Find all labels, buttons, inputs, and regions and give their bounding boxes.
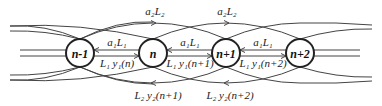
label-L1y1-n1: L₁ y₁(n+1) (165, 57, 213, 70)
label-a2L2: a₂L₂ (217, 5, 236, 17)
curve-bottom-arc (80, 67, 226, 83)
label-L1y1-n: L₁ y₁(n) (99, 57, 135, 70)
label-a1L1: a₁L₁ (180, 36, 199, 48)
node-label: n+1 (216, 47, 236, 61)
curve-bottom-long (10, 67, 153, 81)
node-n: n (139, 39, 167, 67)
node-n-minus-1: n-1 (66, 39, 94, 67)
curve-bottom (300, 67, 372, 77)
curve-top-arc (226, 23, 372, 39)
curve-top (300, 29, 372, 39)
node-label: n+2 (290, 47, 310, 61)
curve-top-arc (153, 23, 300, 39)
coupled-chain-diagram: n-1 n n+1 n+2 a₂L₂ a₂L₂ a₁L₁ a₁L₁ a₁L₁ L… (0, 0, 382, 106)
curve-top-long (10, 25, 153, 39)
label-a2L2: a₂L₂ (145, 5, 164, 17)
label-L2y2-n2: L₂ y₂(n+2) (205, 89, 253, 102)
curve-bottom-arc (153, 67, 300, 83)
node-n-plus-1: n+1 (212, 39, 240, 67)
coupling-labels: a₂L₂ a₂L₂ a₁L₁ a₁L₁ a₁L₁ L₁ y₁(n) L₁ y₁(… (99, 5, 287, 102)
label-a1L1: a₁L₁ (253, 36, 272, 48)
long-range-couplings (10, 22, 372, 84)
label-a1L1: a₁L₁ (107, 36, 126, 48)
node-label: n-1 (72, 47, 89, 61)
curve-top-arc (80, 23, 226, 39)
curve-bottom-arc (226, 67, 372, 83)
label-L2y2-n1: L₂ y₂(n+1) (133, 89, 181, 102)
node-label: n (150, 47, 157, 61)
label-L1y1-n2: L₁ y₁(n+2) (238, 57, 286, 70)
node-n-plus-2: n+2 (286, 39, 314, 67)
